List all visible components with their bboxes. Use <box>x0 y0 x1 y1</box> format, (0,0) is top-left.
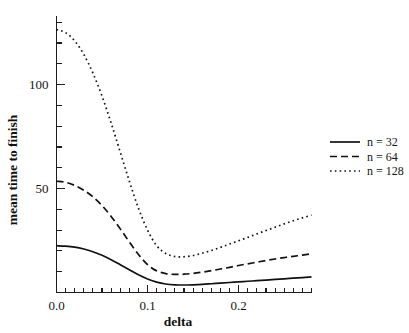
y-axis-ticks <box>57 22 65 292</box>
chart-figure: 50100 0.00.10.2 delta mean time to finis… <box>0 0 409 333</box>
axes-group <box>57 16 313 293</box>
x-tick-label: 0.0 <box>48 298 64 313</box>
series-solid <box>57 246 312 285</box>
x-tick-label: 0.2 <box>231 298 247 313</box>
legend-label: n = 32 <box>367 135 398 149</box>
y-axis-tick-labels: 50100 <box>29 77 49 196</box>
x-axis-tick-labels: 0.00.10.2 <box>48 298 246 313</box>
x-tick-label: 0.1 <box>139 298 155 313</box>
y-axis-title: mean time to finish <box>5 114 20 225</box>
line-chart: 50100 0.00.10.2 delta mean time to finis… <box>0 0 409 333</box>
y-tick-label: 100 <box>29 77 49 92</box>
series-dashed <box>57 181 312 274</box>
series-group <box>57 30 312 286</box>
legend-label: n = 64 <box>367 150 398 164</box>
y-tick-label: 50 <box>36 181 49 196</box>
legend-label: n = 128 <box>367 164 404 178</box>
series-dotted <box>57 30 312 257</box>
x-axis-title: delta <box>164 314 193 329</box>
chart-legend: n = 32n = 64n = 128 <box>330 135 404 178</box>
